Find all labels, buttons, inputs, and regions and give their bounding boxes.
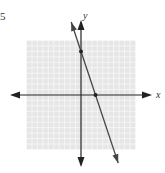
x-axis-label: x: [155, 89, 161, 100]
y-axis-down-arrow-icon: [78, 157, 85, 167]
y-axis-label: y: [82, 10, 88, 21]
intercept-point: [79, 49, 83, 53]
x-axis-right-arrow-icon: [142, 92, 152, 99]
coordinate-plane: x y: [0, 0, 165, 173]
y-axis-up-arrow-icon: [78, 20, 85, 30]
x-axis-left-arrow-icon: [10, 92, 20, 99]
intercept-point: [94, 93, 98, 97]
line-start-arrow-icon: [71, 22, 77, 31]
line-end-arrow-icon: [113, 154, 119, 163]
